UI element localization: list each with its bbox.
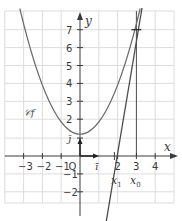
x1-label: x1 bbox=[111, 174, 122, 189]
x0-label: x0 bbox=[130, 174, 141, 189]
y-axis-arrow-icon bbox=[77, 12, 83, 20]
y-tick-label: 5 bbox=[66, 61, 72, 72]
i-vector-arrow-icon bbox=[93, 154, 99, 159]
x-tick-label: 2 bbox=[115, 161, 121, 172]
y-tick-label: 4 bbox=[66, 78, 72, 89]
y-tick-label: 2 bbox=[66, 114, 72, 125]
x-axis-label: x bbox=[164, 140, 171, 154]
y-tick-label: 7 bbox=[66, 25, 72, 36]
y-tick-label: 6 bbox=[66, 43, 72, 54]
y-tick-label: 3 bbox=[66, 96, 72, 107]
grid bbox=[5, 11, 174, 203]
x-tick-label: 3 bbox=[133, 161, 139, 172]
x-tick-label: −3 bbox=[18, 161, 33, 172]
j-vector-arrow-icon bbox=[78, 138, 83, 144]
curve-label: 𝒞f bbox=[24, 108, 36, 118]
y-axis-label: y bbox=[84, 14, 92, 28]
y-tick-label: −1 bbox=[63, 169, 78, 180]
x-tick-label: 4 bbox=[152, 161, 158, 172]
y-tick-label: −2 bbox=[63, 187, 78, 198]
function-graph: −3 −2 −1 O 2 3 4 7 6 5 4 3 2 −1 −2 y x j… bbox=[0, 0, 182, 221]
x-tick-label: −2 bbox=[37, 161, 52, 172]
